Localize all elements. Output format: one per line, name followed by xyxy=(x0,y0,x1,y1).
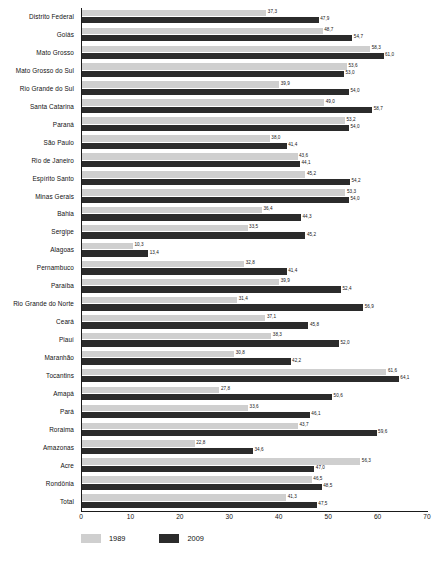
category-label: Bahia xyxy=(0,207,74,221)
category-label: Maranhão xyxy=(0,351,74,365)
bar-value-label: 54,2 xyxy=(351,178,360,183)
category-label: Piauí xyxy=(0,333,74,347)
bar-2009: 45,2 xyxy=(82,232,428,238)
bar-rect xyxy=(82,135,270,141)
bar-rect xyxy=(82,53,384,59)
bar-value-label: 52,4 xyxy=(343,286,352,291)
bar-rect xyxy=(82,63,347,69)
bar-1989: 33,5 xyxy=(82,225,428,231)
category-label: Rio de Janeiro xyxy=(0,154,74,168)
bar-1989: 22,8 xyxy=(82,440,428,446)
bar-value-label: 44,1 xyxy=(301,160,310,165)
bar-value-label: 43,7 xyxy=(300,422,309,427)
bar-value-label: 47,0 xyxy=(316,465,325,470)
bar-rect xyxy=(82,423,298,429)
bar-2009: 47,9 xyxy=(82,17,428,23)
bar-value-label: 53,0 xyxy=(345,70,354,75)
bar-2009: 50,6 xyxy=(82,394,428,400)
bar-rect xyxy=(82,494,286,500)
bar-2009: 46,1 xyxy=(82,412,428,418)
bar-rect xyxy=(82,502,317,508)
category-label: Pernambuco xyxy=(0,261,74,275)
bar-value-label: 61,0 xyxy=(385,52,394,57)
bar-value-label: 48,7 xyxy=(324,27,333,32)
bar-2009: 59,6 xyxy=(82,430,428,436)
bar-group-row: Pernambuco32,841,4 xyxy=(82,259,428,277)
bar-2009: 42,2 xyxy=(82,358,428,364)
bar-rect xyxy=(82,340,339,346)
bar-2009: 54,0 xyxy=(82,89,428,95)
category-label: Ceará xyxy=(0,315,74,329)
bar-rect xyxy=(82,458,360,464)
bar-value-label: 58,3 xyxy=(372,45,381,50)
category-label: Rio Grande do Sul xyxy=(0,82,74,96)
bar-2009: 53,0 xyxy=(82,71,428,77)
x-axis-tick-label: 70 xyxy=(423,513,430,520)
bar-rect xyxy=(82,466,314,472)
bar-value-label: 31,4 xyxy=(239,296,248,301)
bar-rect xyxy=(82,286,341,292)
bar-rect xyxy=(82,153,298,159)
category-label: Rio Grande do Norte xyxy=(0,297,74,311)
bar-rect xyxy=(82,279,279,285)
legend-label: 1989 xyxy=(109,534,125,543)
bar-group-row: Piauí38,352,0 xyxy=(82,331,428,349)
bar-value-label: 33,6 xyxy=(250,404,259,409)
bar-value-label: 49,0 xyxy=(326,99,335,104)
legend-item-2009[interactable]: 2009 xyxy=(159,534,203,543)
x-axis: 010203040506070 xyxy=(81,511,427,527)
bar-1989: 61,6 xyxy=(82,369,428,375)
bar-rect xyxy=(82,35,352,41)
bar-group-row: Amapá27,850,6 xyxy=(82,385,428,403)
bar-group-row: Tocantins61,664,1 xyxy=(82,367,428,385)
bar-2009: 54,0 xyxy=(82,125,428,131)
bar-group-row: Rio Grande do Norte31,456,9 xyxy=(82,295,428,313)
bar-2009: 54,2 xyxy=(82,179,428,185)
category-label: Paraíba xyxy=(0,279,74,293)
bar-rect xyxy=(82,189,345,195)
bar-group-row: Rondônia46,548,5 xyxy=(82,475,428,493)
bar-rect xyxy=(82,387,219,393)
bar-1989: 56,3 xyxy=(82,458,428,464)
bar-rect xyxy=(82,358,291,364)
bar-rect xyxy=(82,161,300,167)
bar-2009: 52,4 xyxy=(82,286,428,292)
bar-value-label: 54,0 xyxy=(350,124,359,129)
x-axis-tick-label: 30 xyxy=(226,513,233,520)
category-label: Rondônia xyxy=(0,477,74,491)
bar-2009: 13,4 xyxy=(82,250,428,256)
bar-value-label: 47,5 xyxy=(318,501,327,506)
bar-value-label: 53,3 xyxy=(347,189,356,194)
bar-value-label: 41,4 xyxy=(288,142,297,147)
bar-2009: 34,6 xyxy=(82,448,428,454)
bar-rect xyxy=(82,171,305,177)
bar-group-row: Ceará37,145,8 xyxy=(82,313,428,331)
bar-1989: 46,5 xyxy=(82,476,428,482)
bar-rect xyxy=(82,261,244,267)
bar-rect xyxy=(82,484,322,490)
bar-2009: 54,0 xyxy=(82,197,428,203)
category-label: Pará xyxy=(0,405,74,419)
bar-group-row: Santa Catarina49,058,7 xyxy=(82,98,428,116)
bar-group-row: Rio Grande do Sul39,954,0 xyxy=(82,80,428,98)
bar-1989: 41,3 xyxy=(82,494,428,500)
bar-value-label: 27,8 xyxy=(221,386,230,391)
bar-value-label: 34,6 xyxy=(255,447,264,452)
category-label: Roraima xyxy=(0,423,74,437)
category-label: Mato Grosso do Sul xyxy=(0,64,74,78)
bar-value-label: 48,5 xyxy=(323,483,332,488)
bar-rect xyxy=(82,405,248,411)
bar-1989: 53,2 xyxy=(82,117,428,123)
x-axis-tick-label: 50 xyxy=(324,513,331,520)
bar-value-label: 52,0 xyxy=(341,340,350,345)
bar-value-label: 30,8 xyxy=(236,350,245,355)
bar-rect xyxy=(82,369,386,375)
bar-value-label: 59,6 xyxy=(378,429,387,434)
bar-1989: 58,3 xyxy=(82,46,428,52)
bar-rect xyxy=(82,394,332,400)
legend-item-1989[interactable]: 1989 xyxy=(81,534,125,543)
category-label: Acre xyxy=(0,459,74,473)
category-label: Santa Catarina xyxy=(0,100,74,114)
bar-value-label: 38,0 xyxy=(271,135,280,140)
bar-group-row: Espírito Santo45,254,2 xyxy=(82,170,428,188)
